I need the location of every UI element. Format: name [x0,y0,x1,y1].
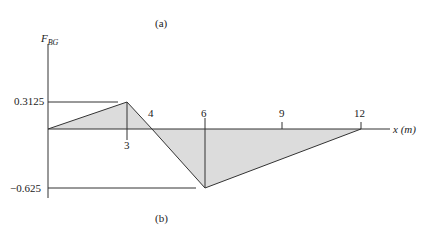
y-tick-label-positive: 0.3125 [14,95,45,107]
tick-label-12: 12 [354,107,365,119]
caption-a: (a) [155,17,168,30]
y-tick-label-negative: −0.625 [10,182,41,194]
caption-b: (b) [155,212,168,225]
influence-line-diagram: (a) (b) FBG x (m) 3 4 6 9 12 0.3125 −0.6… [0,0,426,234]
tick-label-6: 6 [201,107,207,119]
negative-region [152,129,361,188]
tick-label-4: 4 [148,107,154,119]
tick-label-3: 3 [124,139,130,151]
tick-label-9: 9 [279,107,285,119]
x-axis-label: x (m) [392,123,416,136]
y-axis-label: FBG [40,32,59,47]
positive-region [48,102,152,129]
